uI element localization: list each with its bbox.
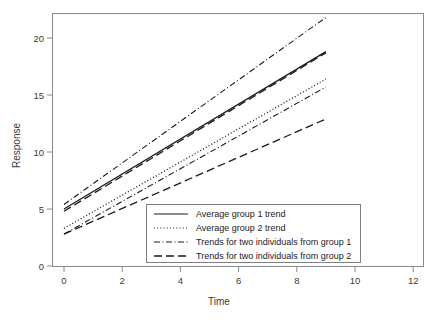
legend-label: Trends for two individuals from group 1 [196, 237, 351, 247]
x-axis-tick-label: 8 [294, 275, 299, 286]
y-axis-tick-label: 10 [20, 147, 44, 158]
y-axis-tick-label: 15 [20, 90, 44, 101]
x-axis-tick-label: 10 [350, 275, 361, 286]
legend-item-average-group-1: Average group 1 trend [147, 207, 360, 221]
x-axis-title: Time [0, 296, 438, 307]
legend-swatch-dotted-icon [152, 222, 190, 234]
legend-label: Trends for two individuals from group 2 [196, 251, 351, 261]
y-axis-tick-label: 5 [20, 204, 44, 215]
legend-label: Average group 2 trend [196, 223, 285, 233]
y-axis-tick-label: 0 [20, 261, 44, 272]
legend-swatch-dash-dot-icon [152, 236, 190, 248]
x-axis-tick-label: 4 [178, 275, 183, 286]
legend-swatch-dashed-icon [152, 250, 190, 262]
chart-legend: Average group 1 trend Average group 2 tr… [146, 204, 361, 263]
legend-rows: Average group 1 trend Average group 2 tr… [147, 205, 360, 263]
legend-swatch-solid-icon [152, 208, 190, 220]
legend-item-individuals-group-2: Trends for two individuals from group 2 [147, 249, 360, 263]
y-axis-title: Response [11, 106, 22, 186]
x-axis-tick-label: 6 [236, 275, 241, 286]
x-axis-tick-label: 0 [61, 275, 66, 286]
legend-item-individuals-group-1: Trends for two individuals from group 1 [147, 235, 360, 249]
legend-label: Average group 1 trend [196, 209, 285, 219]
x-axis-tick-label: 12 [408, 275, 419, 286]
legend-item-average-group-2: Average group 2 trend [147, 221, 360, 235]
x-axis-tick-label: 2 [120, 275, 125, 286]
y-axis-tick-label: 20 [20, 33, 44, 44]
chart-page: 024681012 05101520 Time Response Average… [0, 0, 438, 320]
